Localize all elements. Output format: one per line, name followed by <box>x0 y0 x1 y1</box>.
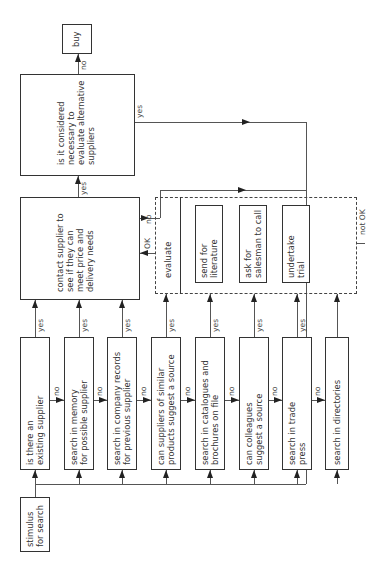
arrow-up-icon <box>163 294 169 302</box>
arrow-up-icon <box>119 300 125 308</box>
no-label: no <box>314 387 322 396</box>
yes-label: yes <box>124 319 132 332</box>
no-label: no <box>271 387 279 396</box>
yes-label: yes <box>81 319 89 332</box>
no-label: no <box>184 387 192 396</box>
decision-label: is it considered necessary to evaluate a… <box>56 81 96 165</box>
end-label: buy <box>71 31 81 47</box>
arrow-right-icon <box>242 119 250 125</box>
no-label: no <box>96 387 104 396</box>
evaluate-feedback-line <box>160 190 306 191</box>
yes-label: yes <box>256 319 264 332</box>
arrow-right-icon <box>187 397 195 403</box>
arrow-up-icon <box>76 300 82 308</box>
no-label: no <box>140 387 148 396</box>
arrow-up-icon <box>294 470 300 478</box>
action-label: ask for salesman to call <box>243 210 263 278</box>
search-step-label: search in memory for possible supplier <box>69 380 89 465</box>
yes-label: yes <box>37 319 45 332</box>
search-step-label: search in company records for previous s… <box>112 352 132 465</box>
search-step-label: search in directories <box>332 380 342 465</box>
arrow-right-icon <box>238 187 246 193</box>
start-label: stimulus for search <box>25 505 45 547</box>
search-step-label: can suppliers of similar products sugges… <box>156 354 176 465</box>
arrow-right-icon <box>274 397 282 403</box>
arrow-up-icon <box>163 470 169 478</box>
decision-yes-connector <box>135 122 306 123</box>
no-label: no <box>53 387 61 396</box>
yes-label: yes <box>212 319 220 332</box>
ok-label: OK <box>144 238 152 249</box>
search-step-label: search in catalogues and brochures on fi… <box>200 360 220 465</box>
evaluate-divider <box>180 197 181 294</box>
arrow-up-icon <box>207 294 213 302</box>
arrow-right-icon <box>317 397 325 403</box>
search-step-label: search in trade press <box>287 402 307 465</box>
arrow-right-icon <box>143 397 151 403</box>
yes-label: yes <box>168 319 176 332</box>
contact-no-label: no <box>145 215 153 224</box>
arrow-up-icon <box>119 470 125 478</box>
search-step-label: can colleagues suggest a source <box>244 394 264 465</box>
arrow-left-icon <box>140 250 148 256</box>
arrow-up-icon <box>207 470 213 478</box>
action-label: undertake trial <box>286 235 306 278</box>
arrow-right-icon <box>56 397 64 403</box>
feed-bus <box>35 484 306 485</box>
stimulus-connector <box>35 484 36 497</box>
evaluate-title: evaluate <box>163 242 173 278</box>
arrow-up-icon <box>32 470 38 478</box>
not-ok-label: not OK <box>359 209 367 235</box>
arrow-right-icon <box>231 397 239 403</box>
arrow-up-icon <box>334 294 340 302</box>
search-step-label: is there an existing supplier <box>25 396 45 465</box>
contact-supplier-label: contact supplier to see if they can meet… <box>55 213 95 292</box>
decision-yes-label: yes <box>136 105 144 118</box>
contact-yes-label: yes <box>80 182 88 195</box>
no-label: no <box>228 387 236 396</box>
arrow-up-icon <box>251 470 257 478</box>
decision-no-label: no <box>80 61 88 70</box>
arrow-up-icon <box>294 294 300 302</box>
yes-label: yes <box>299 319 307 332</box>
arrow-right-icon <box>99 397 107 403</box>
arrow-up-icon <box>76 470 82 478</box>
action-label: send for literature <box>199 239 219 278</box>
arrow-up-icon <box>334 470 340 478</box>
arrow-up-icon <box>251 294 257 302</box>
arrow-up-icon <box>32 300 38 308</box>
not-ok-connector <box>357 243 365 244</box>
